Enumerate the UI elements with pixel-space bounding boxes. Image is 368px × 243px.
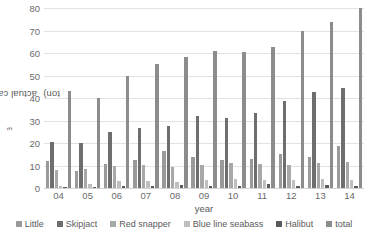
bar <box>308 157 311 188</box>
legend-item[interactable]: Red snapper <box>110 219 171 229</box>
bar <box>350 180 353 188</box>
x-axis-tick-label: 14 <box>335 190 364 204</box>
bar <box>151 186 154 188</box>
bar <box>117 181 120 188</box>
legend-label: total <box>335 219 352 229</box>
bar <box>337 146 340 188</box>
bar <box>97 98 100 188</box>
bar <box>359 8 362 188</box>
x-axis-title: year <box>44 203 364 214</box>
y-axis-tick-label: 10 <box>29 160 40 171</box>
bar <box>325 185 328 188</box>
bar-group <box>131 8 160 188</box>
legend-swatch-icon <box>110 221 116 227</box>
bar <box>296 186 299 188</box>
bar <box>55 170 58 188</box>
legend-label: Blue line seabass <box>193 219 264 229</box>
y-axis-tick-label: 40 <box>29 93 40 104</box>
x-axis-tick-label: 11 <box>248 190 277 204</box>
bar <box>213 51 216 188</box>
bar <box>271 47 274 188</box>
bar <box>283 101 286 188</box>
x-axis-tick-label: 07 <box>131 190 160 204</box>
plot-area: 01020304050607080 <box>22 8 364 188</box>
bar <box>138 128 141 188</box>
legend-label: Halibut <box>285 219 313 229</box>
bar <box>162 151 165 188</box>
x-axis-tick-label: 08 <box>160 190 189 204</box>
bar-group <box>160 8 189 188</box>
bar-group <box>335 8 364 188</box>
bar <box>317 163 320 188</box>
x-axis-tick-label: 10 <box>219 190 248 204</box>
legend-swatch-icon <box>326 221 332 227</box>
bar <box>196 116 199 188</box>
y-axis-tick-label: 50 <box>29 70 40 81</box>
bar <box>229 163 232 188</box>
y-axis-title: actual catch (x103 ton) <box>2 0 22 188</box>
y-axis-tick-labels: 01020304050607080 <box>22 8 42 188</box>
bar <box>258 164 261 188</box>
bar <box>184 57 187 188</box>
bar <box>330 22 333 189</box>
x-axis-tick-label: 04 <box>44 190 73 204</box>
bar <box>167 126 170 188</box>
bar <box>63 187 66 188</box>
bar <box>46 161 49 188</box>
bar <box>84 169 87 188</box>
bar <box>263 180 266 188</box>
bar-group <box>306 8 335 188</box>
bar <box>292 180 295 188</box>
y-axis-tick-label: 80 <box>29 3 40 14</box>
legend-swatch-icon <box>184 221 190 227</box>
x-axis-tick-label: 09 <box>189 190 218 204</box>
bar <box>88 184 91 189</box>
bar <box>104 164 107 188</box>
bar-group <box>277 8 306 188</box>
bar <box>142 165 145 188</box>
bar <box>171 167 174 188</box>
bar <box>321 179 324 188</box>
legend-item[interactable]: Halibut <box>276 219 313 229</box>
bar <box>59 186 62 188</box>
bar <box>209 186 212 188</box>
bar-group <box>248 8 277 188</box>
bar <box>267 184 270 188</box>
bar <box>180 185 183 188</box>
bar <box>133 160 136 188</box>
bar-group <box>219 8 248 188</box>
x-axis-tick-labels: 0405060708091011121314 <box>44 190 364 204</box>
x-axis-tick-label: 05 <box>73 190 102 204</box>
bar <box>250 159 253 188</box>
bar <box>93 187 96 188</box>
bar <box>108 132 111 188</box>
bar-group <box>73 8 102 188</box>
legend-label: Skipjact <box>66 219 98 229</box>
chart-legend: LittleSkipjactRed snapperBlue line seaba… <box>0 219 368 229</box>
bar <box>341 88 344 188</box>
plot-canvas <box>44 8 364 188</box>
x-axis-tick-label: 06 <box>102 190 131 204</box>
bar <box>175 182 178 188</box>
gridline <box>44 188 364 189</box>
legend-item[interactable]: total <box>326 219 352 229</box>
legend-item[interactable]: Skipjact <box>57 219 98 229</box>
legend-label: Red snapper <box>119 219 171 229</box>
bar <box>75 171 78 188</box>
bar <box>234 179 237 188</box>
y-axis-tick-label: 20 <box>29 138 40 149</box>
legend-item[interactable]: Blue line seabass <box>184 219 264 229</box>
bar <box>346 162 349 188</box>
bar <box>79 143 82 188</box>
bar-group <box>44 8 73 188</box>
bar <box>191 157 194 188</box>
y-axis-tick-label: 30 <box>29 115 40 126</box>
bar <box>254 113 257 188</box>
bar <box>225 118 228 188</box>
bar <box>301 31 304 189</box>
bar <box>50 142 53 188</box>
bar-groups <box>44 8 364 188</box>
legend-item[interactable]: Little <box>16 219 44 229</box>
bar <box>122 186 125 188</box>
bar <box>287 165 290 188</box>
